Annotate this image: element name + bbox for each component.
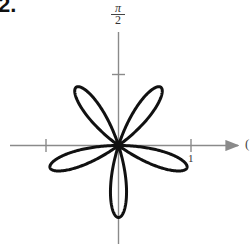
problem-number: 2. [0, 0, 16, 18]
tick-label-one: 1 [188, 152, 194, 164]
pi-over-2-label: π 2 [111, 3, 125, 26]
pi-denominator: 2 [111, 15, 125, 26]
polar-axis-label: ( [245, 136, 249, 152]
polar-plot-svg [0, 0, 251, 244]
polar-plot-figure: 2. π 2 1 ( [0, 0, 251, 244]
